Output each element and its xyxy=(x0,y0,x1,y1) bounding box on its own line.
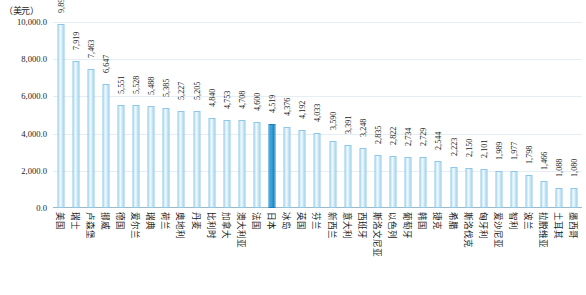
x-axis-tick-label: 墨西哥 xyxy=(568,212,580,239)
bar[interactable] xyxy=(480,169,487,208)
bar-slot: 2,729 xyxy=(416,22,431,208)
bar[interactable] xyxy=(118,105,125,208)
x-axis-tick-label: 爱沙尼亚 xyxy=(493,212,505,248)
bar-highlighted[interactable] xyxy=(269,124,276,208)
x-axis-tick-label: 智利 xyxy=(508,212,520,230)
bar-slot: 3,248 xyxy=(355,22,370,208)
x-axis-tick-label: 挪威 xyxy=(100,212,112,230)
bar[interactable] xyxy=(435,161,442,208)
bar-slot: 9,892 xyxy=(53,22,68,208)
bar-slot: 4,376 xyxy=(280,22,295,208)
bar-slot: 5,205 xyxy=(189,22,204,208)
bar-slot: 2,822 xyxy=(386,22,401,208)
bar[interactable] xyxy=(148,106,155,208)
bar[interactable] xyxy=(390,156,397,208)
bar-value-label: 7,919 xyxy=(71,31,80,49)
bar[interactable] xyxy=(329,141,336,208)
bar[interactable] xyxy=(102,84,109,208)
x-axis-tick-label: 捷克 xyxy=(432,212,444,230)
x-axis-tick-label: 新西兰 xyxy=(327,212,339,239)
bar[interactable] xyxy=(193,111,200,208)
bar-value-label: 5,205 xyxy=(192,82,201,100)
bar[interactable] xyxy=(163,108,170,208)
bar[interactable] xyxy=(556,188,563,208)
y-axis-tick-label: 2,000.0 xyxy=(21,166,47,176)
bar-value-label: 4,033 xyxy=(313,104,322,122)
bar[interactable] xyxy=(299,130,306,208)
bar[interactable] xyxy=(57,24,64,208)
bar-slot: 5,551 xyxy=(113,22,128,208)
x-axis-tick-label: 意大利 xyxy=(342,212,354,239)
bar[interactable] xyxy=(223,120,230,208)
x-axis-tick-label: 波兰 xyxy=(523,212,535,230)
bar[interactable] xyxy=(87,69,94,208)
bar-value-label: 4,376 xyxy=(283,97,292,115)
bar[interactable] xyxy=(133,105,140,208)
bar-slot: 7,919 xyxy=(68,22,83,208)
bar-slot: 1,088 xyxy=(552,22,567,208)
bar[interactable] xyxy=(374,155,381,208)
bar-slot: 4,033 xyxy=(310,22,325,208)
x-axis-tick-label: 卢森堡 xyxy=(85,212,97,239)
bar[interactable] xyxy=(359,148,366,208)
bar-slot: 5,488 xyxy=(144,22,159,208)
bar-slot: 1,798 xyxy=(522,22,537,208)
bar-value-label: 3,248 xyxy=(358,118,367,136)
bar-slot: 4,708 xyxy=(234,22,249,208)
y-axis-tick-label: 0.0 xyxy=(36,203,47,213)
bar-value-label: 6,647 xyxy=(101,55,110,73)
y-axis-tick-label: 6,000.0 xyxy=(21,91,47,101)
x-axis-tick-label: 斯洛伐克 xyxy=(463,212,475,248)
x-axis-tick-label: 英国 xyxy=(296,212,308,230)
bar-value-label: 4,753 xyxy=(222,90,231,108)
bar[interactable] xyxy=(284,127,291,208)
bar-slot: 1,989 xyxy=(491,22,506,208)
bar-slot: 3,590 xyxy=(325,22,340,208)
x-axis-tick-label: 瑞士 xyxy=(70,212,82,230)
y-axis-unit-label: （美元） xyxy=(4,4,38,17)
bar-value-label: 2,101 xyxy=(479,140,488,158)
bar-value-label: 1,088 xyxy=(555,158,564,176)
bar-slot: 4,753 xyxy=(219,22,234,208)
y-axis-tick-labels: 0.02,000.04,000.06,000.08,000.010,000.0 xyxy=(0,22,50,208)
plot-area: 9,8927,9197,4636,6475,5515,5285,4885,385… xyxy=(53,22,582,208)
bar[interactable] xyxy=(571,188,578,208)
bar-slot: 5,385 xyxy=(159,22,174,208)
bar[interactable] xyxy=(72,61,79,208)
bar-value-label: 3,391 xyxy=(343,116,352,134)
bar-slot: 4,192 xyxy=(295,22,310,208)
bar-slot: 4,840 xyxy=(204,22,219,208)
bar-value-label: 2,150 xyxy=(464,139,473,157)
bar[interactable] xyxy=(405,157,412,208)
x-axis-tick-label: 爱尔兰 xyxy=(130,212,142,239)
bar[interactable] xyxy=(208,118,215,208)
bar[interactable] xyxy=(238,120,245,208)
bar[interactable] xyxy=(254,122,261,208)
bar[interactable] xyxy=(510,171,517,208)
x-axis-tick-label: 法国 xyxy=(251,212,263,230)
bar[interactable] xyxy=(344,145,351,208)
bar-slot: 1,977 xyxy=(506,22,521,208)
bar-series: 9,8927,9197,4636,6475,5515,5285,4885,385… xyxy=(53,22,582,208)
bar-value-label: 4,840 xyxy=(207,89,216,107)
bar[interactable] xyxy=(465,168,472,208)
bar[interactable] xyxy=(314,133,321,208)
x-axis-tick-label: 瑞典 xyxy=(145,212,157,230)
bar-slot: 2,734 xyxy=(401,22,416,208)
bar[interactable] xyxy=(420,157,427,208)
bar[interactable] xyxy=(178,111,185,208)
bar[interactable] xyxy=(526,175,533,208)
bar-value-label: 5,227 xyxy=(177,81,186,99)
bar[interactable] xyxy=(541,181,548,208)
y-axis-tick-label: 10,000.0 xyxy=(17,17,47,27)
bar-value-label: 5,385 xyxy=(162,78,171,96)
bar-value-label: 9,892 xyxy=(56,0,65,13)
x-axis-tick-label: 日本 xyxy=(266,212,278,230)
bar[interactable] xyxy=(450,167,457,208)
bar-value-label: 1,798 xyxy=(525,145,534,163)
bar[interactable] xyxy=(495,171,502,208)
bar-slot: 2,150 xyxy=(461,22,476,208)
bar-slot: 4,519 xyxy=(265,22,280,208)
bar-value-label: 2,729 xyxy=(419,128,428,146)
bar-value-label: 2,835 xyxy=(373,126,382,144)
